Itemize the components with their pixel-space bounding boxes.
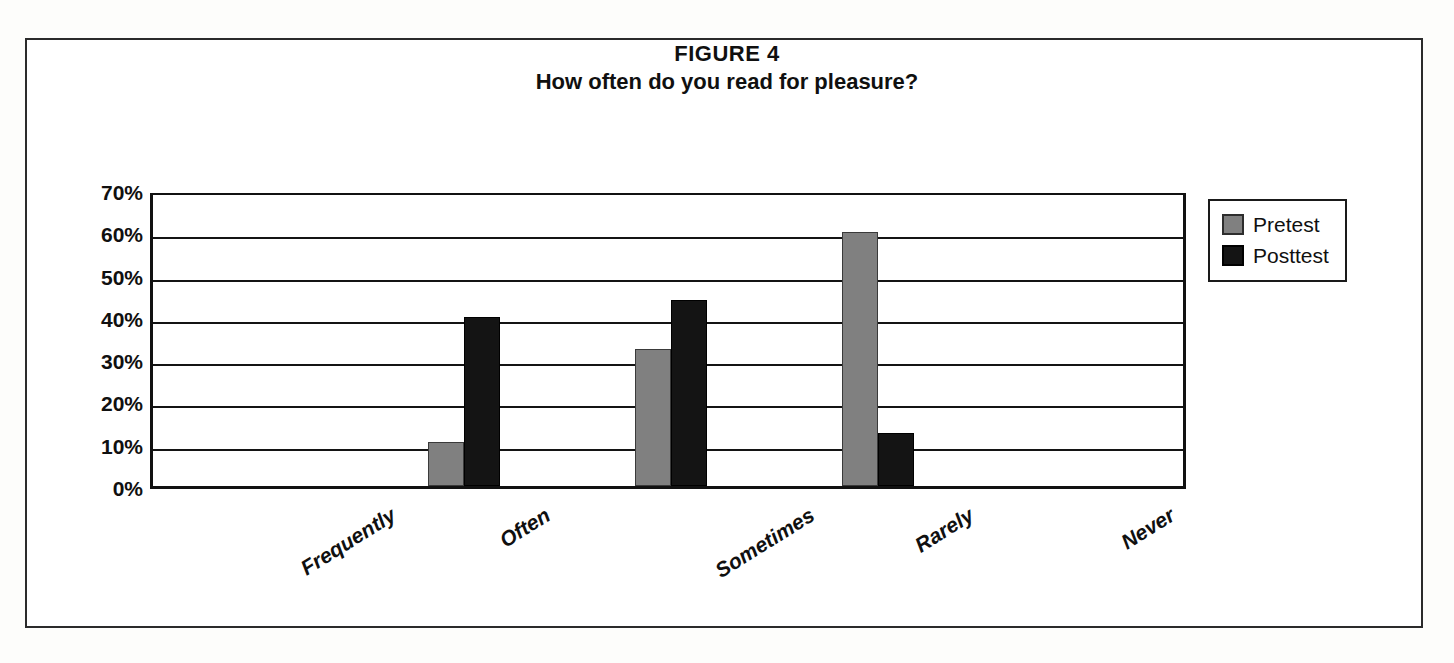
y-axis-tick-70pct: 70% [53,181,143,205]
y-axis-tick-50pct: 50% [53,266,143,290]
chart-legend: PretestPosttest [1208,199,1347,282]
x-axis-tick-often: Often [495,503,554,552]
bar-sometimes-pretest[interactable] [635,349,671,486]
y-axis-tick-0pct: 0% [53,477,143,501]
y-axis-tick-20pct: 20% [53,392,143,416]
x-axis-tick-frequently: Frequently [296,503,400,580]
bar-group-frequently [153,195,360,486]
y-axis-tick-60pct: 60% [53,223,143,247]
bar-group-never [982,195,1189,486]
legend-label-pretest: Pretest [1253,214,1320,235]
x-axis-tick-sometimes: Sometimes [711,503,819,583]
bar-often-posttest[interactable] [464,317,500,486]
plot-area [150,193,1186,489]
legend-item-pretest[interactable]: Pretest [1222,209,1329,240]
y-axis-tick-10pct: 10% [53,435,143,459]
posttest-swatch-icon [1222,245,1244,266]
bar-group-often [360,195,567,486]
bar-rarely-posttest[interactable] [878,433,914,486]
y-axis-labels: 0%10%20%30%40%50%60%70% [40,193,143,489]
x-axis-labels: FrequentlyOftenSometimesRarelyNever [150,489,1186,609]
pretest-swatch-icon [1222,214,1244,235]
legend-label-posttest: Posttest [1253,245,1329,266]
y-axis-tick-30pct: 30% [53,350,143,374]
bar-often-pretest[interactable] [428,442,464,486]
y-axis-tick-40pct: 40% [53,308,143,332]
bar-group-sometimes [567,195,774,486]
bar-group-rarely [775,195,982,486]
bar-rarely-pretest[interactable] [842,232,878,486]
x-axis-tick-rarely: Rarely [911,503,978,557]
x-axis-tick-never: Never [1117,503,1179,554]
bar-sometimes-posttest[interactable] [671,300,707,486]
legend-item-posttest[interactable]: Posttest [1222,240,1329,271]
